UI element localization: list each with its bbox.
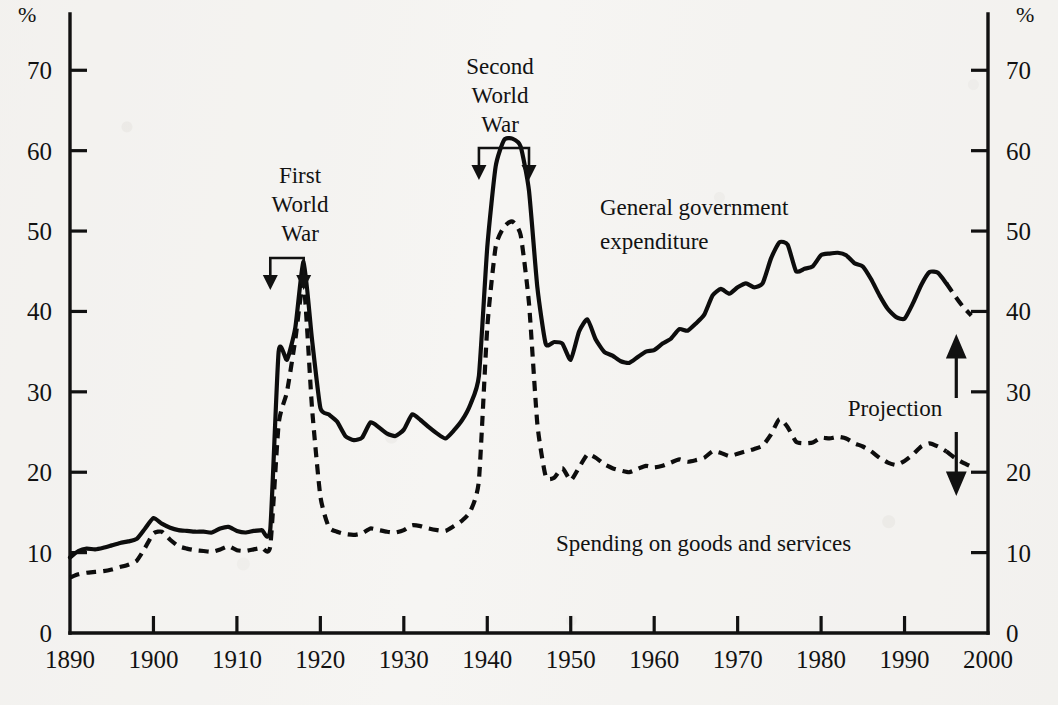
x-axis-tick-labels: 1890190019101920193019401950196019701980…	[45, 646, 1013, 673]
y-axis-ticks-right	[971, 70, 988, 552]
x-axis-tick-label: 1980	[796, 646, 846, 673]
series-general-government-expenditure-historical	[70, 138, 946, 557]
x-axis-tick-label: 1940	[462, 646, 512, 673]
y-axis-tick-label: 40	[27, 298, 52, 325]
y-axis-tick-label: 20	[27, 459, 52, 486]
ww2-label-line2: World	[472, 83, 529, 108]
annotation-projection: Projection	[848, 338, 965, 492]
label-spending-goods-services: Spending on goods and services	[556, 531, 851, 556]
left-axis-unit-label: %	[18, 2, 36, 27]
y-axis-tick-label: 50	[27, 218, 52, 245]
y-axis-tick-label: 60	[1006, 138, 1031, 165]
projection-arrow-up	[948, 338, 964, 398]
series-spending-goods-services-historical	[70, 221, 946, 577]
y-axis-tick-label: 70	[27, 57, 52, 84]
y-axis-ticks-left	[70, 70, 87, 552]
chart-canvas: 010203040506070 010203040506070 18901900…	[0, 0, 1058, 705]
x-axis-tick-label: 1970	[713, 646, 763, 673]
label-general-government-expenditure-line2: expenditure	[600, 229, 709, 254]
series-spending-goods-services-projection	[946, 451, 971, 466]
y-axis-tick-label: 0	[40, 620, 53, 647]
x-axis-tick-label: 1930	[379, 646, 429, 673]
y-axis-tick-labels-right: 010203040506070	[1006, 57, 1031, 647]
y-axis-tick-label: 50	[1006, 218, 1031, 245]
y-axis-tick-label: 0	[1006, 620, 1019, 647]
x-axis-tick-label: 1910	[212, 646, 262, 673]
y-axis-tick-label: 30	[27, 379, 52, 406]
y-axis-tick-label: 30	[1006, 379, 1031, 406]
y-axis-tick-label: 20	[1006, 459, 1031, 486]
x-axis-tick-label: 1990	[880, 646, 930, 673]
y-axis-tick-label: 70	[1006, 57, 1031, 84]
x-axis-tick-label: 1890	[45, 646, 95, 673]
x-axis-tick-label: 2000	[963, 646, 1013, 673]
label-general-government-expenditure-line1: General government	[600, 195, 789, 220]
ww2-label-line3: War	[481, 112, 519, 137]
series-label-total: General government expenditure	[600, 195, 789, 254]
y-axis-tick-labels-left: 010203040506070	[27, 57, 52, 647]
series-group	[70, 138, 971, 577]
y-axis-tick-label: 60	[27, 138, 52, 165]
ww2-label-line1: Second	[466, 54, 534, 79]
x-axis-tick-label: 1950	[546, 646, 596, 673]
annotation-first-world-war: First World War	[263, 163, 329, 290]
ww1-label-line3: War	[281, 221, 319, 246]
y-axis-tick-label: 10	[1006, 540, 1031, 567]
y-axis-tick-label: 10	[27, 540, 52, 567]
ww2-arrowhead-end	[522, 165, 537, 180]
projection-label: Projection	[848, 396, 943, 421]
ww1-label-line2: World	[272, 192, 329, 217]
ww2-arrowhead-start	[471, 165, 486, 180]
x-axis-ticks	[153, 616, 904, 633]
series-general-government-expenditure-projection	[946, 283, 971, 315]
figure-root: 010203040506070 010203040506070 18901900…	[0, 0, 1058, 705]
x-axis-tick-label: 1900	[128, 646, 178, 673]
ww1-label-line1: First	[279, 163, 322, 188]
x-axis-tick-label: 1920	[295, 646, 345, 673]
right-axis-unit-label: %	[1016, 2, 1034, 27]
y-axis-tick-label: 40	[1006, 298, 1031, 325]
x-axis-tick-label: 1960	[629, 646, 679, 673]
ww1-arrowhead-start	[263, 275, 278, 290]
